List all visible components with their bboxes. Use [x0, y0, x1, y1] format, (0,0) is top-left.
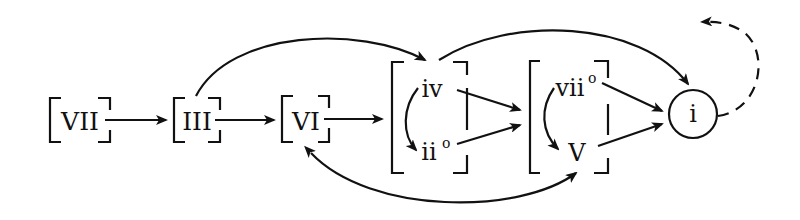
label-vii: VII [60, 107, 99, 136]
label-ii-dim: o [442, 135, 450, 151]
edge-v-vi-arc [311, 153, 576, 202]
node-i: i [669, 90, 717, 138]
label-vi: VI [291, 107, 320, 136]
bracket-left [392, 62, 404, 173]
group-dominant: vii o V [530, 61, 608, 173]
node-iii: III [174, 98, 220, 142]
label-v: V [567, 139, 586, 167]
label-ii: ii [421, 138, 437, 166]
bracket-left [530, 61, 540, 173]
harmonic-flow-diagram: VII III VI iv ii o vii o V i [0, 0, 800, 220]
label-i: i [689, 100, 697, 128]
label-vii-dim-sup: o [588, 70, 596, 86]
node-vii: VII [50, 98, 110, 142]
edge-iii-to-iv-arc [196, 39, 425, 96]
node-vi: VI [282, 96, 329, 142]
edge-viio-to-i [602, 83, 662, 111]
group-predominant: iv ii o [392, 62, 467, 173]
label-vii-dim: vii [555, 74, 585, 102]
label-iv: iv [421, 75, 443, 103]
edge-iv-to-ii [406, 88, 418, 150]
label-iii: III [182, 107, 212, 136]
bracket-left [50, 98, 61, 142]
edge-i-return-dashed [702, 22, 759, 116]
bracket-right [453, 62, 467, 173]
